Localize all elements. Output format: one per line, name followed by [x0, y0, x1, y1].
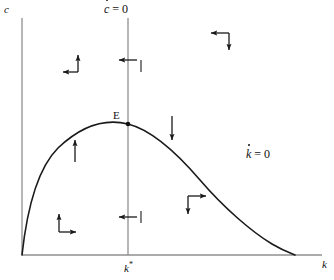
arrow-pair-lower-right	[188, 196, 206, 214]
kdot-zero-curve	[22, 122, 295, 255]
phase-diagram: c k c = 0 k = 0 E k*	[0, 0, 334, 280]
arrow-pair-upper-right	[211, 33, 229, 50]
arrow-on-cdot-locus-upper	[119, 60, 141, 72]
cdot-equals-zero: = 0	[109, 2, 128, 16]
equilibrium-label-E: E	[113, 110, 120, 121]
kdot-variable: k	[246, 148, 251, 160]
cdot-variable: c	[104, 3, 109, 15]
y-axis-label: c	[4, 4, 9, 15]
phase-diagram-canvas	[0, 0, 334, 280]
k-star-tick-label: k*	[124, 261, 133, 274]
arrow-pair-upper-left	[63, 55, 78, 72]
x-axis-label: k	[322, 259, 327, 270]
equilibrium-point-E	[126, 122, 131, 127]
kdot-equals-zero: = 0	[251, 147, 270, 161]
kdot-zero-label: k = 0	[246, 148, 270, 160]
arrow-on-cdot-locus-lower	[119, 211, 141, 223]
arrow-pair-lower-left	[59, 214, 76, 232]
k-star-superscript: *	[129, 260, 133, 269]
cdot-zero-label: c = 0	[104, 3, 128, 15]
